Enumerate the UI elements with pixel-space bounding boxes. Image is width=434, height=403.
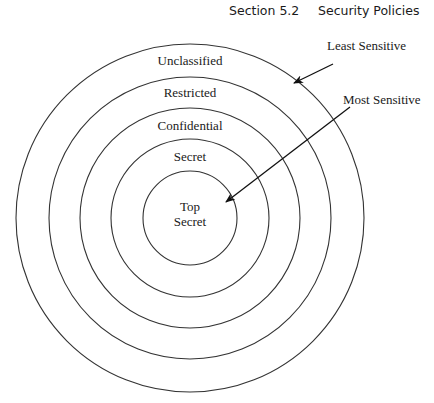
security-levels-diagram: Unclassified Restricted Confidential Sec… <box>0 0 434 403</box>
label-restricted: Restricted <box>164 85 217 100</box>
label-least-sensitive: Least Sensitive <box>327 38 406 53</box>
label-secret: Secret <box>174 149 207 164</box>
label-top-secret: Secret <box>174 214 207 229</box>
label-unclassified: Unclassified <box>158 53 223 68</box>
label-most-sensitive: Most Sensitive <box>343 92 421 107</box>
arrow-least-sensitive <box>294 64 333 83</box>
label-top: Top <box>180 199 200 214</box>
arrow-most-sensitive <box>226 107 350 202</box>
label-confidential: Confidential <box>158 118 223 133</box>
